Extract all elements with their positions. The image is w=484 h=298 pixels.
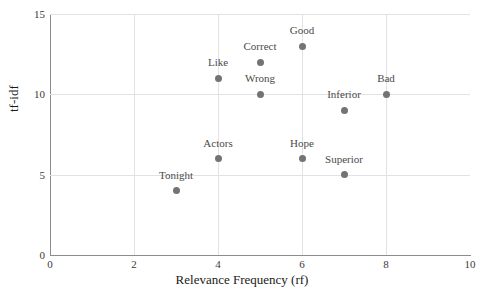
y-axis-tick-label: 15	[34, 8, 45, 20]
page-bleed-through-artifact	[345, 0, 481, 9]
data-point-label: Tonight	[159, 169, 193, 181]
x-axis-title: Relevance Frequency (rf)	[0, 272, 484, 288]
data-point-label: Inferior	[327, 88, 361, 100]
plot-area: 051015 0246810 TonightLikeActorsCorrectW…	[50, 14, 470, 255]
y-axis-tick-label: 5	[40, 169, 46, 181]
data-point-label: Like	[208, 56, 228, 68]
data-point-label: Correct	[244, 40, 277, 52]
gridline-vertical	[218, 14, 219, 255]
gridline-horizontal	[50, 175, 470, 176]
x-axis-tick-label: 6	[299, 258, 305, 270]
data-point-marker[interactable]	[257, 91, 264, 98]
x-axis-tick-label: 8	[383, 258, 389, 270]
y-axis-tick-label: 0	[40, 249, 46, 261]
gridline-horizontal	[50, 14, 470, 15]
data-point-marker[interactable]	[299, 43, 306, 50]
x-axis-tick-label: 2	[131, 258, 137, 270]
y-axis-title: tf-idf	[6, 85, 22, 112]
data-point-marker[interactable]	[215, 75, 222, 82]
x-axis-tick-label: 10	[465, 258, 476, 270]
data-point-marker[interactable]	[173, 187, 180, 194]
data-point-label: Good	[290, 24, 314, 36]
data-point-label: Superior	[325, 153, 363, 165]
data-point-label: Actors	[203, 137, 232, 149]
x-axis-line	[50, 255, 471, 256]
data-point-label: Hope	[290, 137, 314, 149]
data-point-label: Bad	[377, 72, 395, 84]
data-point-label: Wrong	[245, 72, 275, 84]
x-axis-tick-label: 0	[47, 258, 53, 270]
gridline-vertical	[134, 14, 135, 255]
y-axis-tick-label: 10	[34, 88, 45, 100]
data-point-marker[interactable]	[299, 155, 306, 162]
data-point-marker[interactable]	[383, 91, 390, 98]
data-point-marker[interactable]	[215, 155, 222, 162]
gridline-vertical	[302, 14, 303, 255]
data-point-marker[interactable]	[341, 171, 348, 178]
data-point-marker[interactable]	[341, 107, 348, 114]
gridline-vertical	[386, 14, 387, 255]
scatter-plot-figure: 051015 0246810 TonightLikeActorsCorrectW…	[0, 0, 484, 298]
x-axis-tick-label: 4	[215, 258, 221, 270]
data-point-marker[interactable]	[257, 59, 264, 66]
